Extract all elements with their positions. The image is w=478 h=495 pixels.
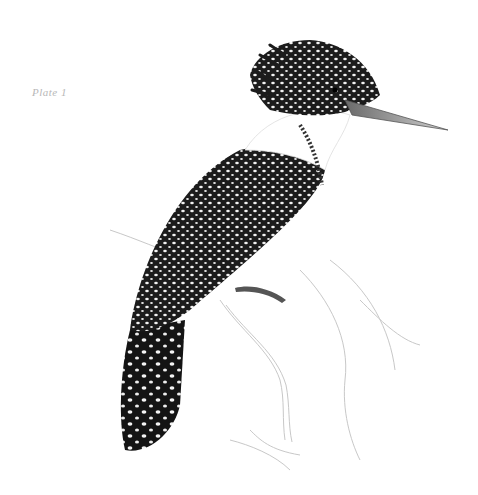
wing [130, 146, 325, 331]
foot [235, 287, 286, 304]
bird-illustration [0, 0, 478, 495]
eye [333, 88, 338, 93]
beak [345, 100, 448, 130]
tail [121, 320, 185, 451]
crest [250, 40, 380, 115]
